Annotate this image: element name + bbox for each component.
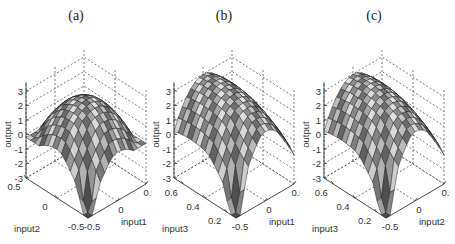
z-tick-label: 3 xyxy=(18,86,23,97)
z-tick-label: 0 xyxy=(166,129,171,140)
z-axis-label: output xyxy=(300,121,311,148)
y-axis-label: input3 xyxy=(312,223,338,234)
panel-b: (b) 3210-1-2-3output-0.500.5input10.20.4… xyxy=(148,0,300,244)
surface-plot-c: 3210-1-2-3output-0.500.5input20.20.40.6i… xyxy=(298,0,450,244)
z-axis-ticks: 3210-1-2-3 xyxy=(15,86,29,184)
y-tick-label: 0.6 xyxy=(315,187,328,198)
y-tick-label: 0.5 xyxy=(7,181,20,192)
z-tick-label: -2 xyxy=(163,158,171,169)
y-axis-label: input3 xyxy=(162,223,188,234)
y-tick-label: 0.2 xyxy=(358,215,371,226)
x-tick-label: -0.5 xyxy=(232,221,248,232)
z-tick-label: 2 xyxy=(166,100,171,111)
y-axis-label: input2 xyxy=(14,223,40,234)
z-tick-label: 0 xyxy=(18,129,23,140)
z-tick-label: -1 xyxy=(15,144,23,155)
z-tick-label: 1 xyxy=(316,115,321,126)
y-tick-label: 0.4 xyxy=(336,201,349,212)
surface-mesh xyxy=(324,73,444,218)
x-axis-label: input1 xyxy=(121,216,147,227)
y-axis-ticks: 0.20.40.6 xyxy=(315,181,377,226)
x-tick-label: -0.5 xyxy=(84,221,100,232)
z-tick-label: -1 xyxy=(163,144,171,155)
surface-plot-b: 3210-1-2-3output-0.500.5input10.20.40.6i… xyxy=(148,0,300,244)
surface-mesh xyxy=(26,95,146,219)
x-tick-label: 0 xyxy=(266,204,271,215)
z-tick-label: -1 xyxy=(313,144,321,155)
z-tick-label: 1 xyxy=(18,115,23,126)
z-tick-label: -3 xyxy=(163,173,171,184)
x-axis-label: input2 xyxy=(419,216,445,227)
z-tick-label: 1 xyxy=(166,115,171,126)
x-tick-label: 0.5 xyxy=(441,187,450,198)
z-axis-label: output xyxy=(150,121,161,148)
y-tick-label: -0.5 xyxy=(68,221,84,232)
z-axis-ticks: 3210-1-2-3 xyxy=(313,86,327,184)
x-tick-label: -0.5 xyxy=(382,221,398,232)
y-tick-label: 0.4 xyxy=(186,201,199,212)
z-tick-label: -2 xyxy=(313,158,321,169)
z-tick-label: 3 xyxy=(316,86,321,97)
z-axis-ticks: 3210-1-2-3 xyxy=(163,86,177,184)
y-axis-ticks: 0.20.40.6 xyxy=(165,181,227,226)
z-tick-label: -3 xyxy=(313,173,321,184)
z-tick-label: 0 xyxy=(316,129,321,140)
y-tick-label: 0 xyxy=(42,201,47,212)
z-tick-label: 2 xyxy=(316,100,321,111)
surface-mesh xyxy=(174,73,294,218)
y-tick-label: 0.6 xyxy=(165,187,178,198)
z-tick-label: -2 xyxy=(15,158,23,169)
z-tick-label: 3 xyxy=(166,86,171,97)
y-tick-label: 0.2 xyxy=(208,215,221,226)
x-tick-label: 0 xyxy=(416,204,421,215)
panel-c: (c) 3210-1-2-3output-0.500.5input20.20.4… xyxy=(298,0,450,244)
x-axis-label: input1 xyxy=(269,216,295,227)
z-tick-label: 2 xyxy=(18,100,23,111)
panel-a: (a) 3210-1-2-3output-0.500.5input1-0.500… xyxy=(0,0,152,244)
z-axis-label: output xyxy=(2,121,13,148)
x-tick-label: 0 xyxy=(118,204,123,215)
surface-plot-a: 3210-1-2-3output-0.500.5input1-0.500.5in… xyxy=(0,0,152,244)
